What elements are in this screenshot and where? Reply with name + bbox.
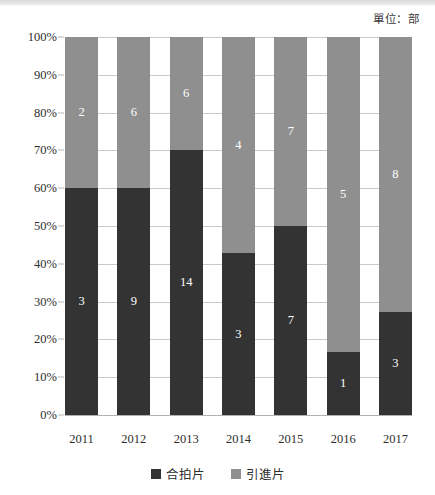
bar-value-label: 4: [235, 139, 241, 152]
bar-segment-imported-2013[interactable]: 6: [170, 37, 203, 150]
bar-segment-imported-2017[interactable]: 8: [379, 37, 412, 312]
bar-segment-imported-2011[interactable]: 2: [65, 37, 98, 188]
y-axis-tick-label: 30%: [34, 294, 57, 309]
y-tick-mark: [58, 37, 64, 38]
bar-2017[interactable]: 83: [379, 37, 412, 415]
bar-2015[interactable]: 77: [274, 37, 307, 415]
bar-value-label: 7: [288, 125, 294, 138]
bar-value-label: 8: [392, 168, 398, 181]
x-axis-label-2014: 2014: [222, 432, 255, 447]
y-axis-tick-label: 100%: [28, 30, 57, 45]
chart-legend: 合拍片引進片: [0, 464, 435, 483]
bar-value-label: 3: [78, 295, 84, 308]
y-tick-mark: [58, 188, 64, 189]
bar-segment-imported-2016[interactable]: 5: [327, 37, 360, 352]
bar-segment-imported-2014[interactable]: 4: [222, 37, 255, 253]
x-axis-label-2017: 2017: [379, 432, 412, 447]
bar-segment-imported-2015[interactable]: 7: [274, 37, 307, 226]
y-axis-tick-label: 90%: [34, 67, 57, 82]
y-axis-tick-label: 50%: [34, 219, 57, 234]
stacked-bar-chart: 單位：部 0%10%20%30%40%50%60%70%80%90%100% 2…: [0, 0, 435, 495]
y-tick-mark: [58, 150, 64, 151]
bar-2012[interactable]: 69: [117, 37, 150, 415]
y-axis-tick-label: 40%: [34, 256, 57, 271]
bar-group: 236961443775183: [65, 37, 412, 415]
legend-label: 引進片: [246, 464, 285, 483]
y-tick-mark: [58, 377, 64, 378]
x-axis-label-2011: 2011: [65, 432, 98, 447]
y-tick-mark: [58, 415, 64, 416]
bar-value-label: 3: [392, 357, 398, 370]
bar-segment-coproduction-2012[interactable]: 9: [117, 188, 150, 415]
x-axis-label-2015: 2015: [274, 432, 307, 447]
y-axis-tick-label: 60%: [34, 181, 57, 196]
x-axis-label-2012: 2012: [117, 432, 150, 447]
gridline-0pct: [65, 415, 412, 416]
bar-value-label: 1: [340, 377, 346, 390]
x-axis-labels: 2011201220132014201520162017: [65, 432, 412, 447]
y-tick-mark: [58, 226, 64, 227]
bar-value-label: 9: [131, 295, 137, 308]
y-axis-tick-label: 20%: [34, 332, 57, 347]
y-tick-mark: [58, 74, 64, 75]
bar-2016[interactable]: 51: [327, 37, 360, 415]
y-axis-tick-label: 10%: [34, 370, 57, 385]
bar-value-label: 14: [180, 276, 193, 289]
bar-2011[interactable]: 23: [65, 37, 98, 415]
y-axis-tick-label: 80%: [34, 105, 57, 120]
x-axis-label-2013: 2013: [170, 432, 203, 447]
bar-segment-coproduction-2011[interactable]: 3: [65, 188, 98, 415]
bar-segment-coproduction-2017[interactable]: 3: [379, 312, 412, 415]
legend-item-合拍片[interactable]: 合拍片: [151, 464, 205, 483]
bar-value-label: 2: [78, 106, 84, 119]
y-axis-tick-label: 0%: [40, 408, 57, 423]
y-tick-mark: [58, 263, 64, 264]
bar-2013[interactable]: 614: [170, 37, 203, 415]
legend-item-引進片[interactable]: 引進片: [231, 464, 285, 483]
unit-note-label: 單位：部: [373, 10, 419, 26]
bar-value-label: 6: [183, 87, 189, 100]
bar-segment-coproduction-2015[interactable]: 7: [274, 226, 307, 415]
x-axis-label-2016: 2016: [327, 432, 360, 447]
y-tick-mark: [58, 112, 64, 113]
legend-swatch-icon: [151, 469, 161, 479]
y-tick-mark: [58, 339, 64, 340]
legend-swatch-icon: [231, 469, 241, 479]
bar-value-label: 7: [288, 314, 294, 327]
bar-value-label: 5: [340, 188, 346, 201]
bar-2014[interactable]: 43: [222, 37, 255, 415]
bar-segment-coproduction-2016[interactable]: 1: [327, 352, 360, 415]
legend-label: 合拍片: [166, 464, 205, 483]
bar-value-label: 6: [131, 106, 137, 119]
bar-value-label: 3: [235, 328, 241, 341]
y-tick-mark: [58, 301, 64, 302]
bar-segment-coproduction-2013[interactable]: 14: [170, 150, 203, 415]
bar-segment-imported-2012[interactable]: 6: [117, 37, 150, 188]
y-axis-tick-label: 70%: [34, 143, 57, 158]
bar-segment-coproduction-2014[interactable]: 3: [222, 253, 255, 415]
plot-area: 0%10%20%30%40%50%60%70%80%90%100% 236961…: [65, 37, 412, 415]
